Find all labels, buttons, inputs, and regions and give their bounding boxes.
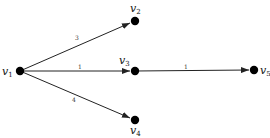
node-label-v5: v5: [260, 64, 270, 78]
node-v2: [131, 17, 139, 25]
edge-weight-v1-v4: 4: [72, 96, 76, 103]
edge-weight-v3-v5: 1: [184, 63, 188, 70]
node-v3: [131, 67, 139, 75]
node-label-v1: v1: [2, 65, 13, 79]
edge-v1-v4: [20, 71, 130, 118]
node-v5: [250, 66, 258, 74]
edge-v3-v5: [135, 70, 249, 71]
edge-weight-v1-v2: 3: [75, 34, 79, 41]
edge-weight-v1-v3: 1: [78, 63, 82, 70]
node-label-v3: v3: [119, 54, 130, 68]
node-label-v2: v2: [130, 2, 141, 16]
graph-diagram: 3 1 1 4 v1 v2 v3 v4 v5: [0, 0, 270, 138]
edge-v1-v2: [20, 23, 130, 71]
node-v1: [16, 67, 24, 75]
node-label-v4: v4: [130, 124, 141, 138]
node-v4: [131, 116, 139, 124]
